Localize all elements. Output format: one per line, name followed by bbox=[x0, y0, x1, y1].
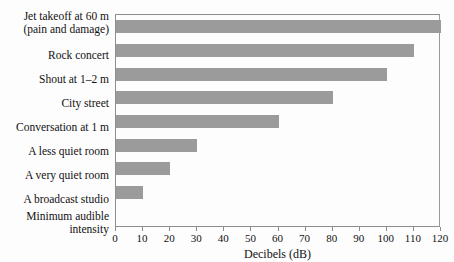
x-tick-mark bbox=[223, 227, 224, 231]
category-label-jet-takeoff: Jet takeoff at 60 m (pain and damage) bbox=[1, 10, 109, 35]
bar bbox=[116, 91, 333, 104]
x-tick-mark bbox=[278, 227, 279, 231]
category-label-broadcast-studio: A broadcast studio bbox=[23, 193, 109, 206]
x-tick-mark bbox=[115, 227, 116, 231]
x-tick-label: 80 bbox=[326, 232, 337, 244]
x-tick-label: 10 bbox=[137, 232, 148, 244]
x-tick-label: 100 bbox=[378, 232, 395, 244]
x-tick-mark bbox=[440, 227, 441, 231]
x-tick-mark bbox=[250, 227, 251, 231]
bar bbox=[116, 139, 197, 152]
x-tick-label: 90 bbox=[353, 232, 364, 244]
x-tick-label: 0 bbox=[112, 232, 118, 244]
category-label-less-quiet-room: A less quiet room bbox=[28, 145, 109, 158]
bar bbox=[116, 162, 170, 175]
category-axis-labels: Jet takeoff at 60 m (pain and damage) Ro… bbox=[0, 14, 112, 227]
decibel-bar-chart: Jet takeoff at 60 m (pain and damage) Ro… bbox=[0, 0, 454, 262]
x-axis: Decibels (dB) 01020304050607080901001101… bbox=[115, 227, 440, 261]
x-tick-label: 120 bbox=[432, 232, 449, 244]
x-tick-mark bbox=[169, 227, 170, 231]
x-tick-mark bbox=[142, 227, 143, 231]
bar bbox=[116, 68, 387, 81]
category-label-minimum-audible-line1: Minimum audible bbox=[1, 210, 109, 223]
x-tick-mark bbox=[305, 227, 306, 231]
x-axis-title: Decibels (dB) bbox=[115, 247, 440, 262]
category-label-very-quiet-room: A very quiet room bbox=[25, 169, 109, 182]
x-tick-mark bbox=[332, 227, 333, 231]
bar bbox=[116, 115, 279, 128]
x-tick-mark bbox=[413, 227, 414, 231]
x-tick-mark bbox=[359, 227, 360, 231]
x-tick-label: 70 bbox=[299, 232, 310, 244]
bar bbox=[116, 20, 441, 33]
plot-area bbox=[115, 14, 440, 227]
x-tick-label: 50 bbox=[245, 232, 256, 244]
x-tick-label: 40 bbox=[218, 232, 229, 244]
category-label-minimum-audible-line2: intensity bbox=[1, 223, 109, 236]
category-label-rock-concert: Rock concert bbox=[48, 49, 109, 62]
x-tick-label: 110 bbox=[405, 232, 421, 244]
bar bbox=[116, 44, 414, 57]
x-tick-label: 30 bbox=[191, 232, 202, 244]
bars-layer bbox=[116, 15, 439, 226]
bar bbox=[116, 186, 143, 199]
category-label-conversation: Conversation at 1 m bbox=[16, 121, 109, 134]
x-tick-label: 60 bbox=[272, 232, 283, 244]
category-label-shout: Shout at 1–2 m bbox=[39, 73, 109, 86]
x-tick-mark bbox=[386, 227, 387, 231]
x-tick-label: 20 bbox=[164, 232, 175, 244]
x-tick-mark bbox=[196, 227, 197, 231]
category-label-city-street: City street bbox=[61, 97, 109, 110]
category-label-jet-takeoff-line1: Jet takeoff at 60 m bbox=[1, 10, 109, 23]
category-label-minimum-audible: Minimum audible intensity bbox=[1, 210, 109, 235]
category-label-jet-takeoff-line2: (pain and damage) bbox=[1, 23, 109, 36]
